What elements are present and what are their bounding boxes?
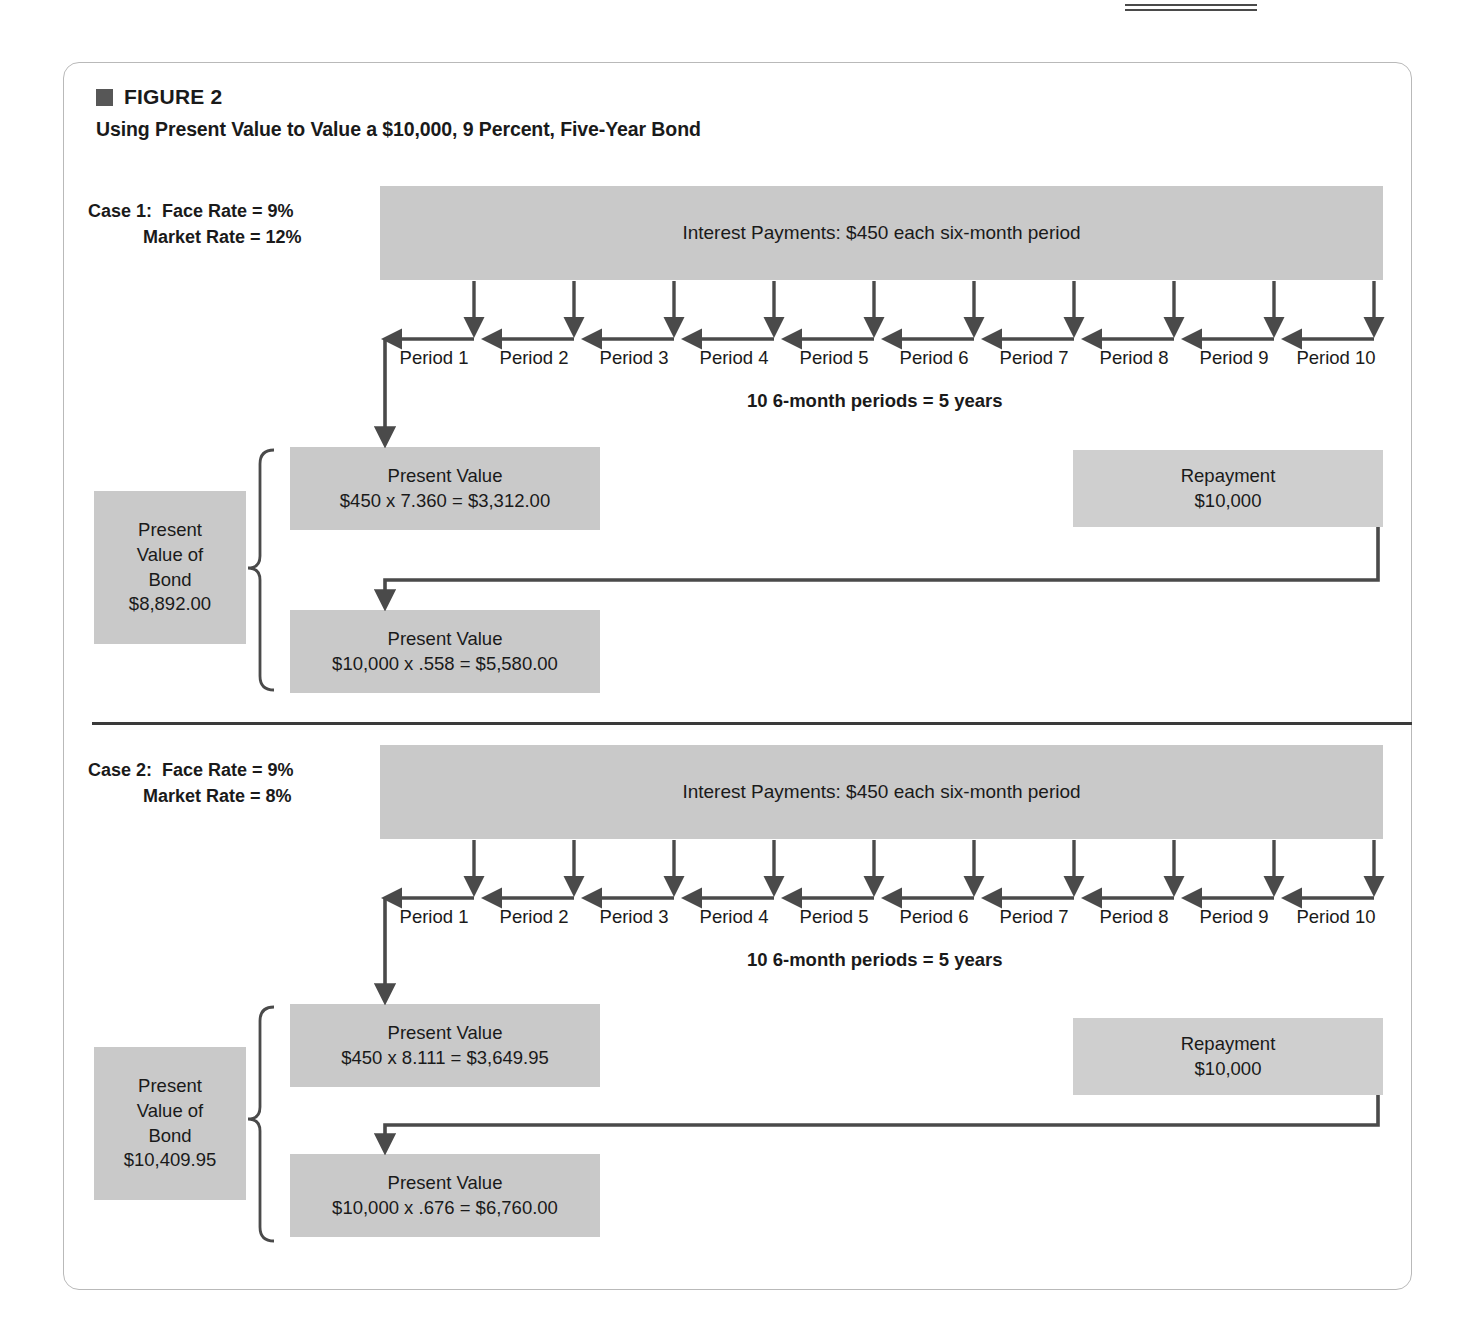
case-1-period-label-1: Period 1 xyxy=(386,347,482,369)
case-1-period-label-4: Period 4 xyxy=(686,347,782,369)
case-1-rates-label: Case 1: Face Rate = 9% Market Rate = 12% xyxy=(88,198,302,250)
case-1-pv-principal-title: Present Value xyxy=(388,627,503,652)
case-2-period-label-4: Period 4 xyxy=(686,906,782,928)
case-2-period-label-6: Period 6 xyxy=(886,906,982,928)
case-1-period-label-10: Period 10 xyxy=(1286,347,1386,369)
case-2-period-label-7: Period 7 xyxy=(986,906,1082,928)
case-1-repayment-amount: $10,000 xyxy=(1195,489,1262,514)
case-2-pv-principal-calc: $10,000 x .676 = $6,760.00 xyxy=(332,1196,558,1221)
case-2-period-label-8: Period 8 xyxy=(1086,906,1182,928)
case-2-period-label-3: Period 3 xyxy=(586,906,682,928)
case-2-pvbond-line3: Bond xyxy=(148,1124,191,1149)
case-2-present-value-interest-box: Present Value $450 x 8.111 = $3,649.95 xyxy=(290,1004,600,1087)
case-1-repayment-title: Repayment xyxy=(1181,464,1276,489)
case-1-pvbond-line3: Bond xyxy=(148,568,191,593)
case-2-period-note: 10 6-month periods = 5 years xyxy=(747,949,1003,971)
case-1-period-note: 10 6-month periods = 5 years xyxy=(747,390,1003,412)
case-1-pv-interest-title: Present Value xyxy=(388,464,503,489)
case-divider xyxy=(92,722,1412,725)
case-2-period-label-1: Period 1 xyxy=(386,906,482,928)
case-2-pvbond-line1: Present xyxy=(138,1074,202,1099)
case-2-repayment-box: Repayment $10,000 xyxy=(1073,1018,1383,1095)
top-rule-line-upper xyxy=(1125,4,1257,6)
case-2-pvbond-line2: Value of xyxy=(137,1099,204,1124)
case-2-present-value-of-bond-box: Present Value of Bond $10,409.95 xyxy=(94,1047,246,1200)
case-1-present-value-interest-box: Present Value $450 x 7.360 = $3,312.00 xyxy=(290,447,600,530)
case-1-pvbond-line2: Value of xyxy=(137,543,204,568)
case-1-interest-payments-bar: Interest Payments: $450 each six-month p… xyxy=(380,186,1383,280)
case-2-repayment-title: Repayment xyxy=(1181,1032,1276,1057)
case-1-pvbond-line1: Present xyxy=(138,518,202,543)
figure-label: FIGURE 2 xyxy=(124,85,222,109)
figure-header: FIGURE 2 Using Present Value to Value a … xyxy=(96,85,701,141)
case-2-pv-principal-title: Present Value xyxy=(388,1171,503,1196)
figure-page: FIGURE 2 Using Present Value to Value a … xyxy=(0,0,1474,1336)
case-1-interest-payments-text: Interest Payments: $450 each six-month p… xyxy=(682,220,1080,245)
case-1-present-value-of-bond-box: Present Value of Bond $8,892.00 xyxy=(94,491,246,644)
case-1-pvbond-amount: $8,892.00 xyxy=(129,592,211,617)
top-rule-line-lower xyxy=(1125,9,1257,11)
case-2-period-label-9: Period 9 xyxy=(1186,906,1282,928)
case-1-period-label-7: Period 7 xyxy=(986,347,1082,369)
case-2-pvbond-amount: $10,409.95 xyxy=(124,1148,217,1173)
case-2-interest-payments-text: Interest Payments: $450 each six-month p… xyxy=(682,779,1080,804)
figure-title: Using Present Value to Value a $10,000, … xyxy=(96,118,701,141)
case-1-period-label-5: Period 5 xyxy=(786,347,882,369)
case-1-pv-interest-calc: $450 x 7.360 = $3,312.00 xyxy=(340,489,550,514)
case-1-period-label-3: Period 3 xyxy=(586,347,682,369)
case-1-period-label-6: Period 6 xyxy=(886,347,982,369)
case-1-period-label-2: Period 2 xyxy=(486,347,582,369)
case-2-period-label-10: Period 10 xyxy=(1286,906,1386,928)
case-2-pv-interest-calc: $450 x 8.111 = $3,649.95 xyxy=(341,1046,549,1071)
case-2-repayment-amount: $10,000 xyxy=(1195,1057,1262,1082)
case-1-period-label-9: Period 9 xyxy=(1186,347,1282,369)
case-1-pv-principal-calc: $10,000 x .558 = $5,580.00 xyxy=(332,652,558,677)
case-2-period-label-5: Period 5 xyxy=(786,906,882,928)
case-2-present-value-principal-box: Present Value $10,000 x .676 = $6,760.00 xyxy=(290,1154,600,1237)
case-2-interest-payments-bar: Interest Payments: $450 each six-month p… xyxy=(380,745,1383,839)
case-1-present-value-principal-box: Present Value $10,000 x .558 = $5,580.00 xyxy=(290,610,600,693)
case-2-pv-interest-title: Present Value xyxy=(388,1021,503,1046)
square-marker-icon xyxy=(96,89,113,106)
page-top-rule-decoration xyxy=(1125,4,1257,13)
case-2-rates-label: Case 2: Face Rate = 9% Market Rate = 8% xyxy=(88,757,294,809)
case-1-period-label-8: Period 8 xyxy=(1086,347,1182,369)
case-1-repayment-box: Repayment $10,000 xyxy=(1073,450,1383,527)
case-2-period-label-2: Period 2 xyxy=(486,906,582,928)
